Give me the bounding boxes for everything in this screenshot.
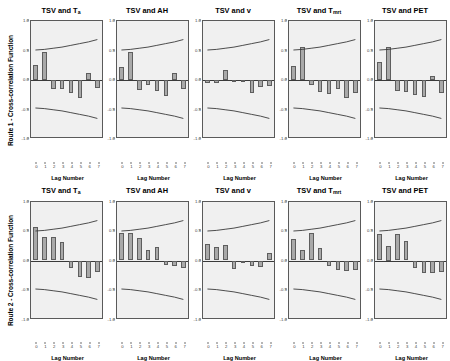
- x-tick-label: 7: [441, 344, 443, 349]
- ccf-bar: [353, 261, 358, 270]
- x-tick-label: 3: [234, 164, 236, 169]
- x-tick-label: 0: [35, 344, 37, 349]
- y-axis: 1.00.50.0-0.5-1.0: [19, 20, 30, 138]
- panel-title-text: TSV and PET: [382, 186, 428, 195]
- panel-title: TSV and Ta: [19, 0, 103, 20]
- ccf-panel: TSV and v1.00.50.0-0.5-1.001234567Lag Nu…: [190, 181, 276, 361]
- y-axis: 1.00.50.0-0.5-1.0: [191, 201, 202, 319]
- x-tick-label: 0: [293, 344, 295, 349]
- ccf-bar: [422, 261, 427, 274]
- x-tick-label: 6: [89, 344, 91, 349]
- ccf-panel: TSV and AH1.00.50.0-0.5-1.001234567Lag N…: [104, 181, 190, 361]
- x-axis: 01234567: [376, 342, 447, 350]
- panel-title: TSV and v: [191, 181, 275, 201]
- ccf-panel: TSV and PET1.00.50.0-0.5-1.001234567Lag …: [362, 181, 448, 361]
- row-axis-label-text: Route 2 - Cross-correlation Function: [7, 215, 14, 326]
- ccf-bar: [78, 261, 83, 278]
- plot-area: [374, 20, 447, 138]
- x-tick-label: 5: [80, 164, 82, 169]
- ccf-bar: [95, 80, 100, 88]
- y-tick-mark: [113, 259, 115, 260]
- panel-title: TSV and Tmrt: [277, 181, 361, 201]
- y-tick-mark: [199, 200, 201, 201]
- x-tick-label: 4: [329, 344, 331, 349]
- x-tick-label: 3: [406, 344, 408, 349]
- x-tick-label: 1: [44, 164, 46, 169]
- y-tick-mark: [199, 108, 201, 109]
- ccf-bar: [404, 241, 409, 260]
- y-tick-mark: [371, 200, 373, 201]
- x-tick-label: 3: [406, 164, 408, 169]
- x-tick-label: 7: [183, 164, 185, 169]
- panel-title-text: TSV and AH: [126, 6, 168, 15]
- ccf-bar: [404, 80, 409, 92]
- row-axis-label: Route 2 - Cross-correlation Function: [2, 181, 18, 361]
- y-axis: 1.00.50.0-0.5-1.0: [191, 20, 202, 138]
- x-tick-label: 7: [355, 164, 357, 169]
- panel-title-text: TSV and v: [215, 6, 251, 15]
- x-tick-label: 1: [388, 164, 390, 169]
- ccf-bar: [336, 261, 341, 270]
- x-tick-label: 3: [320, 344, 322, 349]
- figure-row: Route 2 - Cross-correlation Function TSV…: [0, 181, 450, 361]
- y-tick-mark: [285, 200, 287, 201]
- ccf-bar: [146, 250, 151, 260]
- ccf-bar: [60, 80, 65, 89]
- x-tick-label: 2: [311, 164, 313, 169]
- ccf-bar: [344, 80, 349, 98]
- ccf-bar: [386, 246, 391, 261]
- bar-series: [203, 21, 274, 137]
- y-tick-mark: [27, 200, 29, 201]
- ccf-bar: [291, 66, 296, 80]
- plot-wrap: 1.00.50.0-0.5-1.0: [277, 20, 361, 162]
- ccf-bar: [119, 67, 124, 80]
- y-axis: 1.00.50.0-0.5-1.0: [105, 201, 116, 319]
- x-tick-label: 6: [433, 164, 435, 169]
- panel-title-text: TSV and T: [297, 6, 333, 15]
- y-tick-mark: [27, 49, 29, 50]
- ccf-bar: [119, 233, 124, 260]
- bar-series: [203, 202, 274, 318]
- x-axis: 01234567: [204, 162, 275, 170]
- ccf-bar: [42, 237, 47, 261]
- x-tick-label: 6: [261, 344, 263, 349]
- y-tick-mark: [27, 230, 29, 231]
- y-tick-mark: [285, 289, 287, 290]
- x-tick-label: 4: [415, 164, 417, 169]
- y-tick-mark: [113, 79, 115, 80]
- ccf-bar: [395, 80, 400, 91]
- y-tick-mark: [199, 138, 201, 139]
- ccf-bar: [241, 80, 246, 82]
- x-tick-label: 5: [166, 164, 168, 169]
- ccf-panel: TSV and PET1.00.50.0-0.5-1.001234567Lag …: [362, 0, 448, 181]
- ccf-bar: [395, 234, 400, 261]
- x-tick-label: 3: [320, 164, 322, 169]
- y-axis: 1.00.50.0-0.5-1.0: [277, 201, 288, 319]
- plot-area: [30, 20, 103, 138]
- x-tick-label: 0: [207, 344, 209, 349]
- ccf-bar: [181, 261, 186, 268]
- ccf-bar: [300, 47, 305, 80]
- ccf-bar: [86, 261, 91, 278]
- y-axis: 1.00.50.0-0.5-1.0: [19, 201, 30, 319]
- y-tick-mark: [371, 20, 373, 21]
- x-tick-label: 0: [121, 164, 123, 169]
- y-tick-mark: [285, 318, 287, 319]
- bar-series: [31, 21, 102, 137]
- ccf-bar: [422, 80, 427, 97]
- ccf-bar: [181, 80, 186, 89]
- plot-area: [288, 20, 361, 138]
- y-tick-mark: [199, 318, 201, 319]
- x-axis: 01234567: [376, 162, 447, 170]
- x-axis-title: Lag Number: [290, 355, 361, 361]
- x-tick-label: 5: [338, 344, 340, 349]
- x-tick-label: 0: [379, 344, 381, 349]
- x-tick-label: 7: [97, 344, 99, 349]
- bar-series: [375, 21, 446, 137]
- ccf-bar: [250, 80, 255, 93]
- ccf-bar: [267, 253, 272, 261]
- ccf-bar: [172, 261, 177, 266]
- x-tick-label: 5: [252, 164, 254, 169]
- x-tick-label: 7: [97, 164, 99, 169]
- x-tick-label: 6: [175, 344, 177, 349]
